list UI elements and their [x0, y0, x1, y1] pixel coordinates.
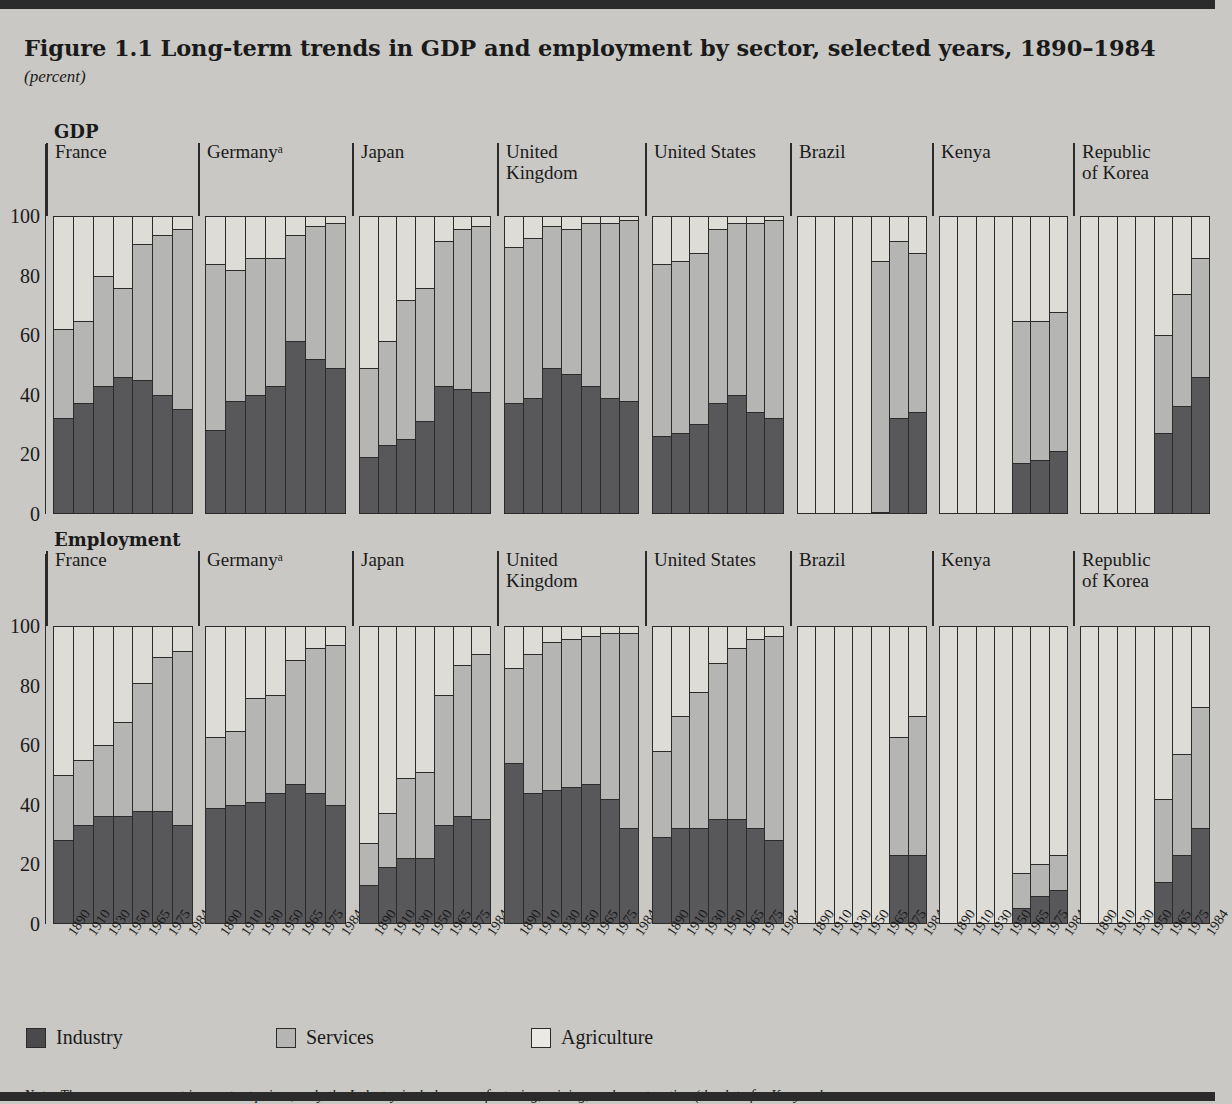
bar-1890[interactable] [940, 627, 958, 923]
bar-1950[interactable] [266, 217, 286, 513]
bar-1984[interactable] [909, 627, 926, 923]
bar-1975[interactable] [306, 217, 326, 513]
bar-1890[interactable] [653, 627, 672, 923]
bar-1910[interactable] [672, 217, 691, 513]
bar-1965[interactable] [582, 627, 601, 923]
bar-1965[interactable] [435, 627, 454, 923]
bar-1930[interactable] [1118, 627, 1136, 923]
bar-1965[interactable] [286, 217, 306, 513]
bar-1930[interactable] [690, 627, 709, 923]
bar-1975[interactable] [454, 627, 473, 923]
bar-1975[interactable] [747, 217, 766, 513]
bar-1984[interactable] [909, 217, 926, 513]
bar-1890[interactable] [206, 217, 226, 513]
bar-1950[interactable] [114, 217, 134, 513]
bar-1890[interactable] [653, 217, 672, 513]
bar-1910[interactable] [1099, 217, 1117, 513]
bar-1975[interactable] [890, 217, 908, 513]
bar-1965[interactable] [435, 217, 454, 513]
bar-1890[interactable] [505, 217, 524, 513]
bar-1984[interactable] [1192, 627, 1209, 923]
bar-1965[interactable] [872, 627, 890, 923]
bar-1975[interactable] [1173, 627, 1191, 923]
bar-1910[interactable] [958, 217, 976, 513]
bar-1965[interactable] [582, 217, 601, 513]
bar-1950[interactable] [562, 217, 581, 513]
bar-1950[interactable] [995, 217, 1013, 513]
bar-1950[interactable] [995, 627, 1013, 923]
bar-1950[interactable] [1136, 627, 1154, 923]
bar-1910[interactable] [524, 627, 543, 923]
bar-1910[interactable] [816, 217, 834, 513]
bar-1890[interactable] [360, 627, 379, 923]
bar-1975[interactable] [890, 627, 908, 923]
bar-1910[interactable] [226, 217, 246, 513]
bar-1930[interactable] [397, 217, 416, 513]
bar-1950[interactable] [853, 627, 871, 923]
bar-1950[interactable] [416, 217, 435, 513]
bar-1910[interactable] [816, 627, 834, 923]
bar-1930[interactable] [835, 217, 853, 513]
bar-1965[interactable] [1155, 217, 1173, 513]
bar-1950[interactable] [266, 627, 286, 923]
bar-1930[interactable] [835, 627, 853, 923]
bar-1984[interactable] [765, 627, 783, 923]
bar-1984[interactable] [765, 217, 783, 513]
bar-1930[interactable] [94, 627, 114, 923]
bar-1890[interactable] [54, 217, 74, 513]
bar-1975[interactable] [747, 627, 766, 923]
bar-1890[interactable] [360, 217, 379, 513]
bar-1890[interactable] [54, 627, 74, 923]
bar-1910[interactable] [74, 217, 94, 513]
bar-1950[interactable] [853, 217, 871, 513]
bar-1984[interactable] [472, 627, 490, 923]
bar-1975[interactable] [601, 627, 620, 923]
bar-1890[interactable] [206, 627, 226, 923]
bar-1930[interactable] [977, 217, 995, 513]
bar-1930[interactable] [543, 217, 562, 513]
bar-1910[interactable] [524, 217, 543, 513]
bar-1965[interactable] [133, 627, 153, 923]
bar-1975[interactable] [306, 627, 326, 923]
bar-1984[interactable] [1192, 217, 1209, 513]
bar-1930[interactable] [246, 217, 266, 513]
bar-1910[interactable] [379, 627, 398, 923]
bar-1890[interactable] [940, 217, 958, 513]
bar-1975[interactable] [153, 627, 173, 923]
bar-1984[interactable] [326, 217, 345, 513]
bar-1930[interactable] [690, 217, 709, 513]
bar-1910[interactable] [74, 627, 94, 923]
bar-1910[interactable] [958, 627, 976, 923]
bar-1975[interactable] [1031, 627, 1049, 923]
bar-1975[interactable] [454, 217, 473, 513]
bar-1984[interactable] [1050, 217, 1067, 513]
bar-1965[interactable] [728, 627, 747, 923]
bar-1930[interactable] [1118, 217, 1136, 513]
bar-1975[interactable] [601, 217, 620, 513]
bar-1950[interactable] [416, 627, 435, 923]
bar-1910[interactable] [226, 627, 246, 923]
bar-1975[interactable] [1031, 217, 1049, 513]
bar-1910[interactable] [672, 627, 691, 923]
bar-1965[interactable] [1013, 627, 1031, 923]
bar-1984[interactable] [326, 627, 345, 923]
bar-1965[interactable] [728, 217, 747, 513]
bar-1984[interactable] [472, 217, 490, 513]
bar-1950[interactable] [114, 627, 134, 923]
bar-1965[interactable] [872, 217, 890, 513]
bar-1984[interactable] [620, 627, 638, 923]
bar-1930[interactable] [246, 627, 266, 923]
bar-1965[interactable] [1013, 217, 1031, 513]
bar-1965[interactable] [133, 217, 153, 513]
bar-1965[interactable] [286, 627, 306, 923]
bar-1965[interactable] [1155, 627, 1173, 923]
bar-1910[interactable] [1099, 627, 1117, 923]
bar-1890[interactable] [1081, 627, 1099, 923]
bar-1950[interactable] [562, 627, 581, 923]
bar-1890[interactable] [505, 627, 524, 923]
bar-1975[interactable] [153, 217, 173, 513]
bar-1890[interactable] [1081, 217, 1099, 513]
bar-1890[interactable] [798, 217, 816, 513]
bar-1984[interactable] [173, 217, 192, 513]
bar-1950[interactable] [1136, 217, 1154, 513]
